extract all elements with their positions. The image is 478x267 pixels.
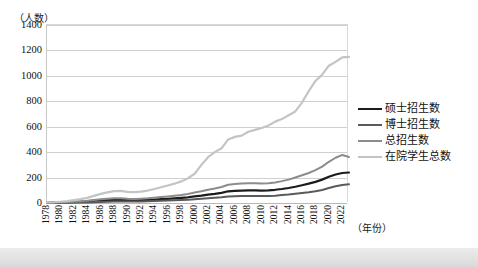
y-tick-label: 1200 — [2, 44, 42, 55]
x-tick-label: 2008 — [242, 205, 252, 224]
plot-area — [46, 24, 348, 202]
x-tick-label: 1980 — [54, 205, 64, 224]
x-tick-label: 1990 — [122, 205, 132, 224]
y-tick-label: 1400 — [2, 19, 42, 30]
chart-container: （人数） 0200400600800100012001400 197819801… — [0, 0, 478, 267]
x-tick-label: 2022 — [336, 205, 346, 224]
legend-item[interactable]: 在院学生总数 — [358, 151, 451, 162]
y-tick-label: 200 — [2, 171, 42, 182]
legend-item[interactable]: 博士招生数 — [358, 119, 451, 130]
x-tick-label: 2020 — [323, 205, 333, 224]
x-tick-label: 1986 — [95, 205, 105, 224]
x-tick-label: 1996 — [162, 205, 172, 224]
y-tick-label: 400 — [2, 146, 42, 157]
x-axis-tick-labels: 1978198019821984198619881990199219941996… — [46, 205, 348, 251]
y-tick-label: 0 — [2, 197, 42, 208]
legend-color-swatch — [358, 156, 382, 158]
x-tick-label: 2010 — [256, 205, 266, 224]
bottom-caption-strip — [0, 248, 478, 267]
x-tick-label: 1992 — [135, 205, 145, 224]
legend-item[interactable]: 硕士招生数 — [358, 103, 451, 114]
x-tick-label: 1984 — [81, 205, 91, 224]
x-axis-unit-label: （年份） — [352, 220, 392, 235]
legend-label: 总招生数 — [385, 135, 429, 146]
legend-color-swatch — [358, 124, 382, 126]
legend-item[interactable]: 总招生数 — [358, 135, 451, 146]
x-tick-label: 2006 — [229, 205, 239, 224]
x-tick-label: 2004 — [215, 205, 225, 224]
x-tick-label: 2014 — [283, 205, 293, 224]
x-tick-label: 1988 — [108, 205, 118, 224]
x-tick-label: 2016 — [296, 205, 306, 224]
x-tick-label: 2000 — [189, 205, 199, 224]
legend-color-swatch — [358, 140, 382, 142]
legend-label: 博士招生数 — [385, 119, 440, 130]
x-tick-label: 2018 — [309, 205, 319, 224]
series-line — [47, 57, 349, 203]
y-tick-label: 800 — [2, 95, 42, 106]
x-tick-label: 1978 — [41, 205, 51, 224]
y-axis-tick-labels: 0200400600800100012001400 — [0, 24, 42, 202]
legend-color-swatch — [358, 108, 382, 110]
x-tick-label: 1994 — [148, 205, 158, 224]
x-tick-label: 2012 — [269, 205, 279, 224]
legend-label: 硕士招生数 — [385, 103, 440, 114]
chart-legend: 硕士招生数博士招生数总招生数在院学生总数 — [358, 103, 451, 162]
series-lines — [47, 25, 349, 203]
x-tick-label: 1982 — [68, 205, 78, 224]
x-tick-label: 1998 — [175, 205, 185, 224]
y-tick-label: 1000 — [2, 69, 42, 80]
x-tick-label: 2002 — [202, 205, 212, 224]
y-tick-label: 600 — [2, 120, 42, 131]
legend-label: 在院学生总数 — [385, 151, 451, 162]
